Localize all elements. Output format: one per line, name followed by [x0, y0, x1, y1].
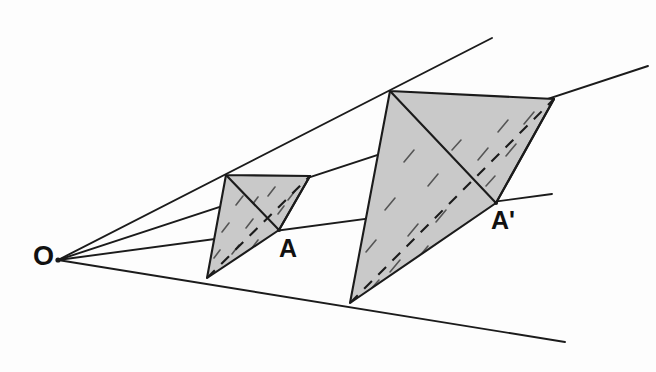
- large-vertex-Aprime-dot: [494, 201, 498, 205]
- figure-canvas: [0, 0, 656, 372]
- label-point-A: A: [279, 236, 297, 261]
- small-vertex-A-dot: [277, 228, 281, 232]
- label-point-A-prime: A': [491, 208, 515, 233]
- label-point-O: O: [33, 243, 54, 270]
- ray-bottom-line: [58, 260, 565, 342]
- center-point-O-dot: [55, 257, 60, 262]
- small-tetrahedron: [207, 175, 310, 278]
- geometry-figure: O A A': [0, 0, 656, 372]
- ray-top-right-line: [58, 66, 648, 260]
